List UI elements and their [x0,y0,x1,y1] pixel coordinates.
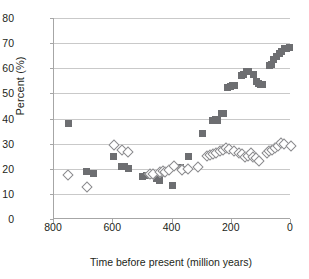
data-point-square [220,110,227,117]
y-tick-mark [50,93,54,94]
data-point-square [199,130,206,137]
x-tick-label: 600 [92,222,132,233]
x-tick-label: 400 [152,222,192,233]
data-point-square [286,44,293,51]
y-tick-mark [50,43,54,44]
x-tick-label: 800 [33,222,73,233]
data-point-square [231,82,238,89]
gridline [54,93,290,94]
y-axis-title: Percent (%) [14,30,26,142]
y-tick-label: 70 [0,38,14,49]
y-tick-label: 10 [0,189,14,200]
data-point-square [110,153,117,160]
gridline [54,68,290,69]
data-point-square [169,182,176,189]
y-tick-mark [50,18,54,19]
y-tick-label: 20 [0,164,14,175]
gridline [54,18,290,19]
gridline [54,119,290,120]
data-point-square [259,81,266,88]
y-tick-mark [50,144,54,145]
plot-area [53,18,290,219]
data-point-square [125,165,132,172]
data-point-square [65,120,72,127]
data-point-square [83,168,90,175]
scatter-chart: Percent (%) 01020304050607080 8006004002… [0,0,309,279]
y-tick-mark [50,169,54,170]
data-point-square [214,117,221,124]
data-point-diamond [192,161,203,172]
data-point-square [185,153,192,160]
x-axis-title: Time before present (million years) [40,256,302,268]
x-tick-label: 0 [270,222,309,233]
data-point-diamond [123,146,134,157]
data-point-diamond [81,182,92,193]
gridline [54,144,290,145]
y-tick-mark [50,194,54,195]
y-tick-label: 40 [0,114,14,125]
data-point-square [90,170,97,177]
y-tick-label: 60 [0,63,14,74]
y-tick-label: 30 [0,139,14,150]
y-tick-mark [50,119,54,120]
data-point-diamond [63,169,74,180]
y-tick-label: 0 [0,214,14,225]
x-tick-label: 200 [211,222,251,233]
y-tick-mark [50,68,54,69]
gridline [54,194,290,195]
gridline [54,43,290,44]
y-tick-label: 50 [0,88,14,99]
y-tick-label: 80 [0,13,14,24]
